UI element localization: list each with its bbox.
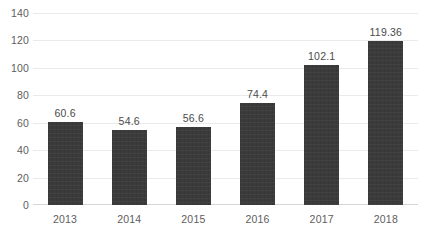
x-axis-tick-label: 2013 <box>33 213 97 225</box>
bar-slot: 102.1 <box>290 13 354 205</box>
bar-chart: 140 120 100 80 60 40 20 0 60.6 54.6 <box>0 0 425 232</box>
bar-slot: 60.6 <box>33 13 97 205</box>
bar-slot: 56.6 <box>161 13 225 205</box>
y-axis-tick-label: 80 <box>1 89 29 101</box>
bar[interactable]: 54.6 <box>112 130 147 205</box>
bar-value-label: 56.6 <box>183 112 204 124</box>
y-axis-tick-label: 100 <box>1 62 29 74</box>
x-axis-tick-label: 2014 <box>97 213 161 225</box>
bar-value-label: 102.1 <box>308 50 335 62</box>
y-axis-tick-label: 0 <box>1 199 29 211</box>
bar-value-label: 119.36 <box>370 26 403 38</box>
x-axis-tick-label: 2016 <box>226 213 290 225</box>
bar-value-label: 74.4 <box>247 88 268 100</box>
x-axis-tick-label: 2017 <box>290 213 354 225</box>
bar-group: 60.6 54.6 56.6 74.4 102.1 <box>33 13 418 205</box>
bar[interactable]: 119.36 <box>368 41 403 205</box>
plot-area: 60.6 54.6 56.6 74.4 102.1 <box>33 13 418 205</box>
y-axis: 140 120 100 80 60 40 20 0 <box>0 0 33 232</box>
bar-slot: 54.6 <box>97 13 161 205</box>
bar[interactable]: 102.1 <box>304 65 339 205</box>
bar-value-label: 60.6 <box>54 107 75 119</box>
bar[interactable]: 60.6 <box>48 122 83 205</box>
bar[interactable]: 56.6 <box>176 127 211 205</box>
bar-slot: 74.4 <box>226 13 290 205</box>
bar-slot: 119.36 <box>354 13 418 205</box>
y-axis-tick-label: 140 <box>1 7 29 19</box>
x-axis-tick-label: 2018 <box>354 213 418 225</box>
bar-value-label: 54.6 <box>119 115 140 127</box>
bar[interactable]: 74.4 <box>240 103 275 205</box>
x-axis-tick-label: 2015 <box>161 213 225 225</box>
y-axis-tick-label: 40 <box>1 144 29 156</box>
x-axis: 2013 2014 2015 2016 2017 2018 <box>33 205 418 232</box>
y-axis-tick-label: 120 <box>1 34 29 46</box>
y-axis-tick-label: 20 <box>1 172 29 184</box>
y-axis-tick-label: 60 <box>1 117 29 129</box>
